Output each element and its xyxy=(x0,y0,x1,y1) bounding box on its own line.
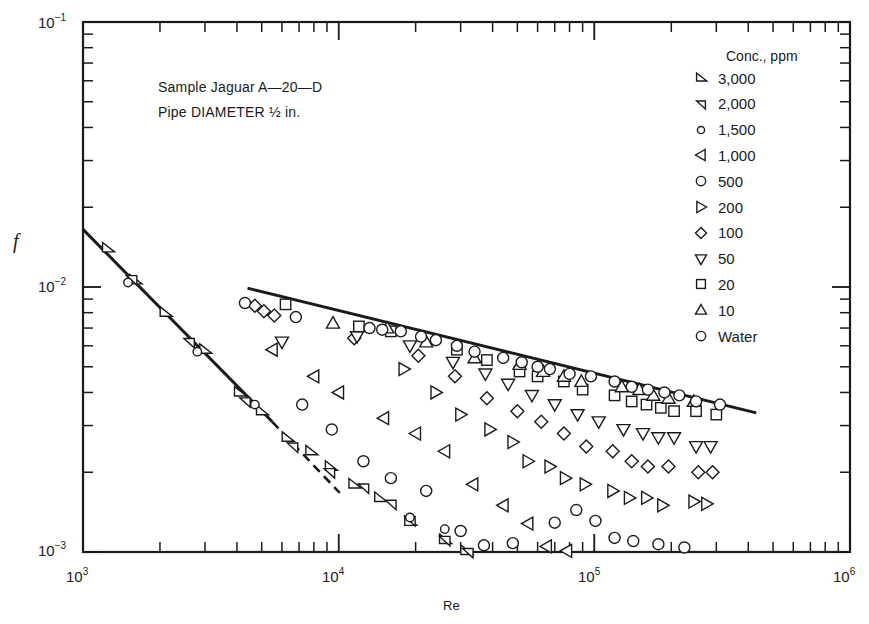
data-point xyxy=(431,386,442,399)
data-point xyxy=(307,370,318,383)
data-point xyxy=(399,363,410,376)
data-point xyxy=(626,381,637,392)
legend-label: 200 xyxy=(718,199,743,216)
data-point xyxy=(679,542,690,553)
data-point xyxy=(297,399,308,410)
data-point xyxy=(395,326,406,337)
legend-label: 100 xyxy=(718,224,743,241)
data-point xyxy=(652,433,665,444)
legend-item: 1,500 xyxy=(692,120,756,140)
data-point xyxy=(714,399,725,410)
data-point xyxy=(412,349,425,362)
data-point xyxy=(571,410,584,421)
data-point xyxy=(466,478,477,491)
data-point xyxy=(416,331,427,342)
data-point xyxy=(280,299,290,309)
data-point xyxy=(659,387,670,398)
data-point xyxy=(669,406,679,416)
data-point xyxy=(702,497,713,510)
data-point xyxy=(193,347,201,355)
data-point xyxy=(385,473,396,484)
data-point xyxy=(545,460,556,473)
y-tick-label-mid: 10−2 xyxy=(38,276,66,295)
data-point xyxy=(535,415,548,428)
series-water xyxy=(239,298,725,411)
data-point xyxy=(421,485,432,496)
data-point xyxy=(606,445,619,458)
legend-label: 20 xyxy=(718,276,735,293)
series-500 xyxy=(297,399,690,553)
data-point xyxy=(287,443,297,452)
legend-label: 3,000 xyxy=(718,70,756,87)
data-point xyxy=(624,491,635,504)
data-point xyxy=(184,338,194,347)
circle-marker-icon xyxy=(692,327,710,345)
data-point xyxy=(377,324,388,335)
data-point xyxy=(160,307,172,316)
data-point xyxy=(349,479,361,488)
legend-item: 1,000 xyxy=(692,145,756,165)
data-point xyxy=(479,369,492,380)
fit-line-0 xyxy=(83,229,272,421)
data-point xyxy=(668,433,681,444)
data-point xyxy=(103,242,115,251)
data-point xyxy=(706,466,719,479)
circle-marker-icon xyxy=(692,172,710,190)
data-point xyxy=(386,500,396,509)
data-point xyxy=(502,379,515,390)
x-tick-label-1e6: 106 xyxy=(833,566,855,585)
legend-item: 10 xyxy=(692,300,735,320)
data-point xyxy=(625,455,638,468)
data-point xyxy=(332,386,343,399)
data-point xyxy=(704,442,717,453)
triangle-down-marker-icon xyxy=(692,250,710,268)
legend-item: 2,000 xyxy=(692,94,756,114)
data-point xyxy=(571,505,582,516)
data-point xyxy=(642,491,653,504)
data-point xyxy=(409,427,420,440)
data-point xyxy=(521,517,532,530)
data-point xyxy=(406,513,414,521)
data-point xyxy=(608,484,619,497)
data-point xyxy=(590,515,601,526)
data-point xyxy=(469,346,480,357)
legend-item: 50 xyxy=(692,249,735,269)
data-points xyxy=(103,242,726,557)
data-point xyxy=(377,412,388,425)
data-point xyxy=(564,368,575,379)
sample-annotation: Sample Jaguar A—20—D xyxy=(158,79,322,95)
data-point xyxy=(448,370,461,383)
data-point xyxy=(497,499,508,512)
data-point xyxy=(628,536,639,547)
data-point xyxy=(326,424,337,435)
x-tick-label-1e5: 105 xyxy=(578,566,600,585)
y-tick-label-top: 10−1 xyxy=(38,12,66,31)
data-point xyxy=(653,539,664,550)
data-point xyxy=(456,408,467,421)
data-point xyxy=(592,417,605,428)
circle-small-marker-icon xyxy=(692,121,710,139)
data-point xyxy=(548,400,561,411)
data-point xyxy=(290,312,301,323)
data-point xyxy=(617,425,630,436)
legend-item: 20 xyxy=(692,274,735,294)
data-point xyxy=(451,340,462,351)
data-point xyxy=(525,390,538,401)
data-point xyxy=(508,436,519,449)
data-point xyxy=(516,357,527,368)
y-axis-label: f xyxy=(13,230,19,253)
y-tick-label-bottom: 10−3 xyxy=(38,540,66,559)
data-point xyxy=(478,540,489,551)
legend-label: Water xyxy=(718,328,757,345)
data-point xyxy=(354,321,364,331)
x-axis-label: Re xyxy=(443,598,460,613)
data-point xyxy=(641,460,654,473)
pipe-diameter-annotation: Pipe DIAMETER ½ in. xyxy=(158,104,300,120)
diamond-marker-icon xyxy=(692,224,710,242)
data-point xyxy=(626,396,636,406)
data-point xyxy=(674,390,685,401)
data-point xyxy=(549,517,560,528)
data-point xyxy=(689,495,700,508)
data-point xyxy=(358,456,369,467)
data-point xyxy=(124,278,132,286)
